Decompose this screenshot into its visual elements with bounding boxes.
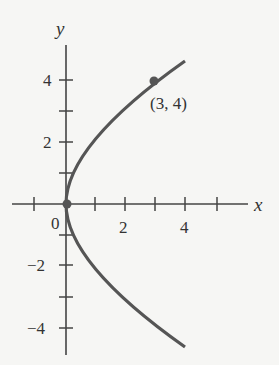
origin-marker [63, 200, 72, 209]
tick-label-x4: 4 [180, 218, 189, 237]
tick-label-ym2: −2 [27, 256, 45, 275]
parabola-chart: y x 0 2 4 4 2 −2 −4 (3, 4) [0, 0, 279, 365]
tick-label-y2: 2 [43, 133, 52, 152]
x-axis-label: x [253, 194, 263, 215]
y-axis-label: y [54, 18, 65, 39]
tick-label-x2: 2 [119, 218, 128, 237]
point-label: (3, 4) [150, 94, 187, 113]
point-marker [150, 77, 159, 86]
tick-label-0: 0 [51, 214, 60, 233]
tick-label-y4: 4 [43, 71, 52, 90]
tick-label-ym4: −4 [27, 319, 46, 338]
